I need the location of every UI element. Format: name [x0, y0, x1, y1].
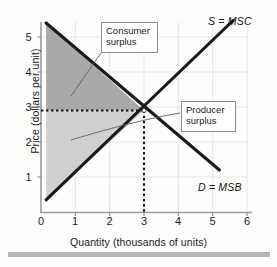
y-tick-1: 1 [22, 171, 35, 183]
x-tick-3: 3 [136, 215, 152, 227]
consumer-surplus-callout: Consumer surplus [101, 22, 158, 53]
y-tick-5: 5 [22, 31, 35, 43]
x-axis-title: Quantity (thousands of units) [70, 236, 207, 248]
x-tick-2: 2 [102, 215, 118, 227]
x-tick-0: 0 [33, 215, 49, 227]
x-tick-1: 1 [67, 215, 83, 227]
footer-divider-bar [8, 252, 270, 257]
x-tick-4: 4 [170, 215, 186, 227]
x-tick-5: 5 [205, 215, 221, 227]
demand-curve-label: D = MSB [198, 181, 242, 193]
x-tick-6: 6 [239, 215, 255, 227]
producer-surplus-callout: Producer surplus [181, 101, 236, 132]
figure-container: Price (dollars per unit) Quantity (thous… [0, 0, 277, 267]
equilibrium-point [142, 108, 146, 112]
y-tick-2: 2 [22, 136, 35, 148]
y-tick-3: 3 [22, 101, 35, 113]
y-tick-4: 4 [22, 66, 35, 78]
supply-curve-label: S = MSC [208, 15, 252, 27]
